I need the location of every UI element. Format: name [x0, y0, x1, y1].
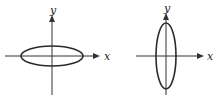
x-axis-label: x: [104, 50, 111, 63]
figure-horizontal-ellipse: y x: [5, 4, 111, 95]
x-axis-arrow-icon: [197, 53, 204, 59]
x-axis-arrow-icon: [93, 53, 100, 59]
x-axis-label: x: [207, 50, 214, 63]
figure-vertical-ellipse: y x: [136, 2, 214, 95]
y-axis-label: y: [49, 4, 57, 17]
diagram-canvas: y x y x: [0, 0, 223, 100]
y-axis-label: y: [163, 2, 171, 15]
